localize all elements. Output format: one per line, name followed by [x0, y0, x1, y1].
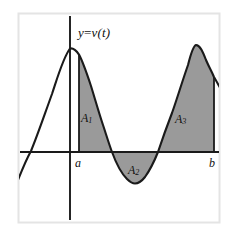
region-label-a1-subscript: 1 [88, 116, 92, 125]
region-label-a3-subscript: 3 [182, 117, 186, 126]
function-label-rhs: v(t) [92, 25, 111, 40]
x-tick-label-a: a [75, 157, 81, 169]
region-label-a3: A3 [175, 113, 186, 126]
velocity-area-figure: y=v(t) a b A1 A2 A3 [0, 0, 237, 236]
region-label-a2-subscript: 2 [135, 168, 139, 177]
function-label: y=v(t) [78, 26, 110, 39]
function-label-equals: = [84, 25, 92, 40]
region-label-a2: A2 [128, 164, 139, 177]
region-label-a1: A1 [81, 112, 92, 125]
x-tick-label-b: b [209, 157, 215, 169]
figure-canvas [0, 0, 237, 236]
